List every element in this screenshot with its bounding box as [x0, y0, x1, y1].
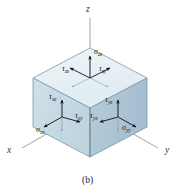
stress-label-tau-yz: τyz — [105, 96, 112, 104]
stress-label-sigma-xx: σxx — [36, 126, 45, 134]
figure-caption: (b) — [82, 176, 93, 186]
stress-label-tau-zy: τzy — [99, 65, 106, 73]
stress-label-tau-zx: τzx — [62, 65, 69, 73]
stress-element-figure: z x y σzz τzx τzy τxz τxy σxx τyz τyx σy… — [0, 0, 180, 193]
tau-zy-subscript: zy — [102, 68, 106, 74]
stress-label-tau-xz: τxz — [49, 93, 56, 101]
tau-zx-subscript: zx — [65, 68, 69, 74]
axis-label-y: y — [165, 146, 169, 156]
sigma-xx-subscript: xx — [40, 129, 45, 135]
stress-element-diagram — [0, 0, 180, 193]
stress-label-sigma-zz: σzz — [94, 48, 102, 56]
sigma-zz-subscript: zz — [98, 51, 102, 57]
axis-label-z: z — [86, 5, 90, 15]
stress-label-sigma-yy: σyy — [122, 124, 131, 132]
tau-xy-subscript: xy — [78, 115, 83, 121]
axis-label-x: x — [7, 146, 11, 156]
tau-yx-subscript: yx — [93, 115, 98, 121]
tau-yz-subscript: yz — [108, 99, 112, 105]
stress-label-tau-xy: τxy — [75, 112, 82, 120]
stress-label-tau-yx: τyx — [90, 112, 97, 120]
tau-xz-subscript: xz — [52, 96, 56, 102]
sigma-yy-subscript: yy — [126, 127, 131, 133]
